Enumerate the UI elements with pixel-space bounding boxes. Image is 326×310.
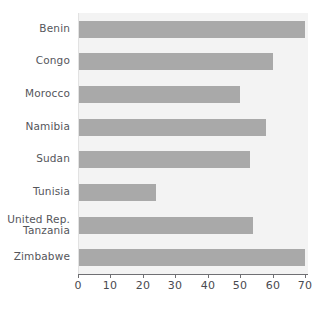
- category-label: Benin: [0, 23, 70, 35]
- category-axis: BeninCongoMoroccoNamibiaSudanTunisiaUnit…: [0, 13, 74, 274]
- x-tick-label: 60: [258, 279, 288, 292]
- x-axis-ticks: 010203040506070: [0, 274, 326, 304]
- x-tick-label: 0: [63, 279, 93, 292]
- x-tick-mark: [175, 274, 176, 278]
- x-tick-mark: [273, 274, 274, 278]
- bar: [78, 217, 253, 234]
- bar: [78, 119, 266, 136]
- x-tick-label: 20: [128, 279, 158, 292]
- category-label: Tunisia: [0, 186, 70, 198]
- x-tick-label: 50: [225, 279, 255, 292]
- x-tick-label: 30: [160, 279, 190, 292]
- bar: [78, 249, 305, 266]
- category-label: Namibia: [0, 121, 70, 133]
- x-tick-mark: [305, 274, 306, 278]
- x-tick-mark: [143, 274, 144, 278]
- x-tick-mark: [110, 274, 111, 278]
- category-label: United Rep. Tanzania: [0, 214, 70, 237]
- x-tick-mark: [78, 274, 79, 278]
- plot-area: [78, 13, 308, 274]
- x-tick-mark: [240, 274, 241, 278]
- bar-chart: BeninCongoMoroccoNamibiaSudanTunisiaUnit…: [0, 0, 326, 310]
- x-tick-label: 70: [290, 279, 320, 292]
- y-axis-spine: [78, 13, 79, 274]
- bar: [78, 21, 305, 38]
- bar: [78, 53, 273, 70]
- x-tick-label: 10: [95, 279, 125, 292]
- x-tick-mark: [208, 274, 209, 278]
- category-label: Zimbabwe: [0, 251, 70, 263]
- bar: [78, 184, 156, 201]
- bar: [78, 151, 250, 168]
- category-label: Morocco: [0, 88, 70, 100]
- bar: [78, 86, 240, 103]
- x-tick-label: 40: [193, 279, 223, 292]
- category-label: Sudan: [0, 153, 70, 165]
- category-label: Congo: [0, 55, 70, 67]
